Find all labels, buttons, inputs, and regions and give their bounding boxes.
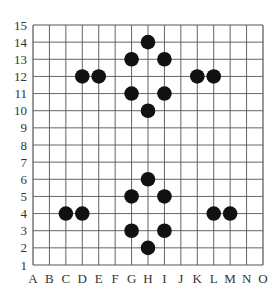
row-label: 12 — [14, 69, 27, 84]
column-label: E — [95, 271, 103, 286]
stone-black-G11[interactable] — [124, 86, 139, 101]
stone-black-L12[interactable] — [206, 69, 221, 84]
stone-black-L4[interactable] — [206, 206, 221, 221]
stone-black-G3[interactable] — [124, 223, 139, 238]
stone-black-I11[interactable] — [157, 86, 172, 101]
column-label: O — [258, 271, 267, 286]
row-label: 9 — [21, 120, 28, 135]
board-grid — [33, 25, 263, 265]
column-label: G — [127, 271, 136, 286]
column-label: D — [78, 271, 87, 286]
column-label: A — [28, 271, 38, 286]
column-label: I — [162, 271, 166, 286]
stone-black-H6[interactable] — [141, 172, 156, 187]
row-label: 14 — [14, 35, 28, 50]
stone-black-D12[interactable] — [75, 69, 90, 84]
row-label: 6 — [21, 172, 28, 187]
stone-black-E12[interactable] — [91, 69, 106, 84]
column-label: M — [224, 271, 236, 286]
stone-black-H2[interactable] — [141, 241, 156, 256]
row-label: 11 — [14, 86, 27, 101]
stone-black-H14[interactable] — [141, 35, 156, 50]
column-label: N — [242, 271, 252, 286]
row-label: 3 — [21, 223, 28, 238]
stone-black-K12[interactable] — [190, 69, 205, 84]
stone-black-D4[interactable] — [75, 206, 90, 221]
row-label: 5 — [21, 189, 28, 204]
column-label: C — [62, 271, 71, 286]
stone-black-G5[interactable] — [124, 189, 139, 204]
game-board[interactable]: 123456789101112131415 ABCDEFGHIJKLMNO — [0, 0, 280, 298]
stone-black-C4[interactable] — [59, 206, 74, 221]
row-labels: 123456789101112131415 — [14, 18, 28, 273]
row-label: 4 — [21, 206, 28, 221]
column-label: B — [45, 271, 54, 286]
stone-black-H10[interactable] — [141, 103, 156, 118]
column-label: L — [210, 271, 218, 286]
column-label: F — [112, 271, 119, 286]
row-label: 1 — [21, 258, 28, 273]
column-label: K — [193, 271, 203, 286]
row-label: 8 — [21, 138, 28, 153]
stone-black-G13[interactable] — [124, 52, 139, 67]
stone-black-I13[interactable] — [157, 52, 172, 67]
column-label: J — [178, 271, 183, 286]
column-label: H — [143, 271, 152, 286]
stone-black-M4[interactable] — [223, 206, 238, 221]
row-label: 13 — [14, 52, 27, 67]
column-labels: ABCDEFGHIJKLMNO — [28, 271, 267, 286]
row-label: 2 — [21, 240, 28, 255]
stone-black-I5[interactable] — [157, 189, 172, 204]
row-label: 7 — [21, 155, 28, 170]
row-label: 10 — [14, 103, 27, 118]
stone-black-I3[interactable] — [157, 223, 172, 238]
row-label: 15 — [14, 18, 27, 33]
